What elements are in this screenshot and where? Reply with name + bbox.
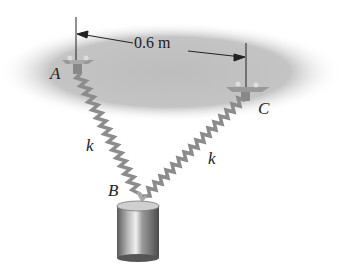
spring-bc-label: k [208,150,216,167]
point-c-label: C [258,100,269,117]
spring-ab-label: k [86,137,94,154]
spring-system-diagram [0,0,342,276]
point-a-label: A [50,65,60,82]
point-b-label: B [108,182,118,199]
dimension-label: 0.6 m [134,35,170,51]
weight-cylinder [117,201,159,262]
